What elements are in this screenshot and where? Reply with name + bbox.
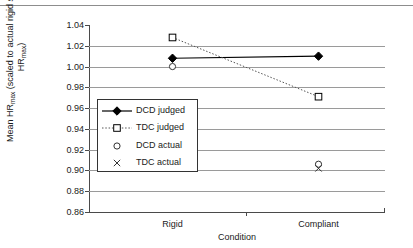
legend-item: TDC judged: [98, 119, 199, 137]
open-square-marker: [169, 34, 176, 41]
legend-item-label: TDC judged: [136, 122, 184, 133]
legend-item-label: TDC actual: [136, 157, 181, 168]
chart-legend: DCD judgedTDC judgedDCD actualTDC actual: [97, 99, 198, 172]
legend-item-label: DCD judged: [136, 105, 185, 116]
filled-diamond-marker: [168, 54, 176, 62]
cross-marker: [114, 160, 120, 166]
legend-key-glyph: [100, 154, 134, 172]
open-circle-key: [100, 137, 134, 155]
open-square-dotted-key: [100, 119, 134, 137]
filled-diamond-marker: [113, 107, 121, 115]
legend-key-glyph: [100, 137, 134, 155]
cross-key: [100, 154, 134, 172]
legend-key-glyph: [100, 119, 134, 137]
open-square-marker: [114, 125, 121, 132]
legend-item: TDC actual: [98, 154, 199, 172]
legend-item: DCD judged: [98, 102, 199, 120]
filled-diamond-line-key: [100, 102, 134, 120]
open-square-marker: [315, 93, 322, 100]
data-series-layer: [0, 0, 413, 248]
series-line-tdc-judged: [173, 37, 319, 96]
legend-key-glyph: [100, 102, 134, 120]
open-circle-marker: [114, 143, 120, 149]
series-line-dcd-judged: [173, 56, 319, 58]
open-circle-marker: [169, 63, 175, 69]
legend-item: DCD actual: [98, 137, 199, 155]
legend-item-label: DCD actual: [136, 140, 182, 151]
chart-figure: Mean HRmax (scaled to actual rigid surfa…: [0, 0, 413, 248]
filled-diamond-marker: [314, 52, 322, 60]
